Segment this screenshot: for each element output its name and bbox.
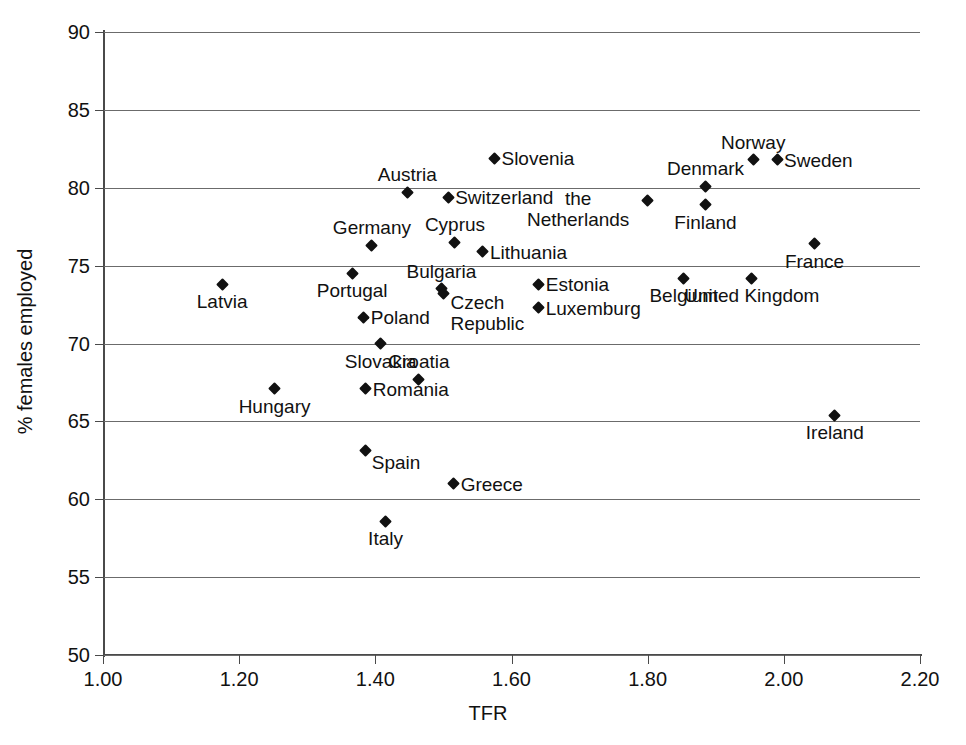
data-point-label: Cyprus [425, 214, 485, 235]
x-tick-label: 1.40 [335, 668, 415, 690]
gridline-y [103, 499, 920, 500]
data-point-label: Germany [333, 217, 411, 238]
y-tick-mark [95, 577, 104, 578]
data-point [771, 153, 784, 166]
gridline-y [103, 344, 920, 345]
data-point-label: France [785, 251, 844, 272]
data-point-label: Hungary [239, 396, 311, 417]
y-tick-label: 85 [50, 100, 90, 120]
data-point [532, 278, 545, 291]
y-tick-mark [95, 499, 104, 500]
data-point-label: Portugal [317, 280, 388, 301]
x-tick-label: 1.80 [608, 668, 688, 690]
x-tick-label: 1.60 [472, 668, 552, 690]
data-point [357, 311, 370, 324]
x-tick-label: 1.00 [63, 668, 143, 690]
y-tick-label: 65 [50, 411, 90, 431]
y-tick-label: 80 [50, 178, 90, 198]
data-point-label: Poland [371, 307, 430, 328]
data-point-label: Romania [373, 378, 449, 399]
y-tick-mark [95, 344, 104, 345]
data-point-label: the Netherlands [521, 188, 636, 230]
x-tick-label: 2.20 [880, 668, 960, 690]
data-point-label: Spain [372, 452, 421, 473]
x-tick-mark [239, 655, 240, 664]
data-point-label: Austria [378, 164, 437, 185]
data-point [447, 477, 460, 490]
data-point [808, 237, 821, 250]
data-point [488, 152, 501, 165]
y-tick-label: 55 [50, 567, 90, 587]
y-axis-tick-labels: 908580757065605550 [38, 0, 90, 745]
data-point-label: Luxemburg [546, 297, 641, 318]
data-point [346, 267, 359, 280]
data-point [449, 236, 462, 249]
data-point [641, 194, 654, 207]
y-tick-label: 60 [50, 489, 90, 509]
data-point [268, 382, 281, 395]
data-point [366, 239, 379, 252]
data-point [216, 278, 229, 291]
y-tick-mark [95, 266, 104, 267]
y-tick-label: 90 [50, 22, 90, 42]
data-point-label: Bulgaria [407, 261, 477, 282]
x-tick-mark [648, 655, 649, 664]
data-point [699, 199, 712, 212]
x-tick-mark [920, 655, 921, 664]
data-point-label: Croatia [388, 351, 449, 372]
data-point-label: Estonia [546, 274, 609, 295]
data-point [745, 272, 758, 285]
data-point [379, 515, 392, 528]
y-tick-mark [95, 110, 104, 111]
y-tick-label: 70 [50, 334, 90, 354]
gridline-y [103, 577, 920, 578]
data-point-label: United Kingdom [684, 285, 819, 306]
scatter-chart-figure: % females employed 908580757065605550 Sl… [0, 0, 966, 745]
x-tick-mark [512, 655, 513, 664]
y-tick-mark [95, 32, 104, 33]
x-tick-label: 1.20 [199, 668, 279, 690]
data-point-label: Greece [461, 473, 523, 494]
y-axis-title: % females employed [14, 107, 37, 577]
data-point-label: Lithuania [490, 241, 567, 262]
gridline-y [103, 421, 920, 422]
data-point-label: Ireland [806, 422, 864, 443]
gridline-y [103, 32, 920, 33]
data-point [677, 272, 690, 285]
data-point-label: Sweden [784, 149, 853, 170]
data-point [829, 409, 842, 422]
data-point [442, 191, 455, 204]
x-tick-mark [103, 655, 104, 664]
x-axis-title: TFR [0, 702, 966, 725]
data-point [359, 445, 372, 458]
data-point-label: Norway [721, 132, 785, 153]
data-point-label: Italy [368, 528, 403, 549]
y-tick-mark [95, 421, 104, 422]
data-point-label: Czech Republic [450, 292, 550, 334]
data-point-label: Denmark [667, 158, 744, 179]
data-point [747, 153, 760, 166]
x-tick-label: 2.00 [744, 668, 824, 690]
y-tick-mark [95, 188, 104, 189]
data-point-label: Finland [674, 212, 736, 233]
y-tick-label: 75 [50, 256, 90, 276]
data-point [359, 382, 372, 395]
gridline-y [103, 110, 920, 111]
x-axis-title-text: TFR [469, 702, 508, 724]
data-point-label: Slovenia [501, 148, 574, 169]
plot-area: SloveniaNorwaySwedenDenmarkAustriaSwitze… [103, 32, 920, 655]
data-point [477, 245, 490, 258]
x-tick-mark [784, 655, 785, 664]
data-point [374, 337, 387, 350]
data-point [699, 180, 712, 193]
x-tick-mark [375, 655, 376, 664]
data-point-label: Latvia [197, 291, 248, 312]
y-tick-mark [95, 655, 104, 656]
y-tick-label: 50 [50, 645, 90, 665]
